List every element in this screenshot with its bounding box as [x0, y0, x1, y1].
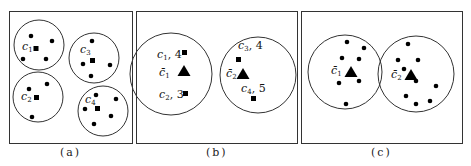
centroid-label: c̄2: [226, 67, 237, 81]
data-point: [357, 79, 362, 84]
group-circle: [378, 36, 454, 112]
data-point: [21, 57, 26, 62]
caption-a: (a): [60, 146, 81, 159]
caption-b: (b): [206, 146, 228, 159]
data-point: [29, 34, 34, 39]
data-point: [30, 115, 35, 120]
data-point: [402, 67, 407, 72]
data-point: [345, 40, 350, 45]
cluster-c1: c1: [14, 20, 64, 70]
group-circle: [308, 35, 382, 109]
cluster-label: c3: [80, 43, 91, 57]
data-point: [81, 62, 86, 67]
data-point: [45, 82, 50, 87]
cluster-c4: c4: [78, 86, 128, 136]
data-point: [108, 63, 113, 68]
data-point: [109, 114, 114, 119]
figure-canvas: c1 c3 c2 c4: [0, 0, 471, 166]
centroid-triangle-marker: [345, 66, 358, 77]
panel-b: c1, 4 c̄1 c2, 3 c3, 4 c̄2 c4, 5: [130, 12, 298, 144]
member-square-marker: [236, 57, 241, 62]
centroid-triangle-marker: [237, 68, 250, 79]
data-point: [27, 87, 32, 92]
member-label-c4: c4, 5: [241, 82, 266, 96]
data-point: [340, 56, 345, 61]
data-point: [344, 102, 349, 107]
cluster-label: c1: [22, 40, 33, 54]
centroid-square-marker: [34, 46, 39, 51]
centroid-label: c̄1: [159, 66, 170, 80]
panel-a: c1 c3 c2 c4: [10, 12, 133, 144]
data-point: [434, 84, 439, 89]
centroid-square-marker: [95, 106, 100, 111]
panel-a-frame: [10, 12, 133, 144]
member-square-marker: [182, 50, 187, 55]
group-2: c3, 4 c̄2 c4, 5: [220, 37, 296, 113]
cluster-c3: c3: [69, 33, 119, 83]
centroid-triangle-marker: [178, 65, 191, 76]
centroid-triangle-marker: [405, 69, 418, 80]
data-point: [90, 39, 95, 44]
data-point: [114, 97, 119, 102]
member-label-c2: c2, 3: [159, 88, 184, 102]
data-point: [414, 102, 419, 107]
member-square-marker: [251, 96, 256, 101]
centroid-label: c̄2: [391, 68, 402, 82]
group-2: c̄2: [378, 36, 454, 112]
centroid-square-marker: [90, 58, 95, 63]
data-point: [92, 122, 97, 127]
data-point: [94, 93, 99, 98]
data-point: [406, 42, 411, 47]
member-label-c3: c3, 4: [238, 39, 263, 53]
data-point: [396, 58, 401, 63]
group-1: c1, 4 c̄1 c2, 3: [130, 33, 212, 115]
group-circle: [130, 33, 212, 115]
data-point: [83, 107, 88, 112]
data-point: [414, 79, 419, 84]
data-point: [404, 94, 409, 99]
data-point: [416, 58, 421, 63]
data-point: [50, 39, 55, 44]
data-point: [44, 57, 49, 62]
member-square-marker: [183, 91, 188, 96]
data-point: [362, 46, 367, 51]
cluster-c2: c2: [13, 72, 63, 122]
data-point: [428, 99, 433, 104]
panel-c: c̄1 c̄2: [302, 12, 463, 144]
data-point: [357, 57, 362, 62]
member-label-c1: c1, 4: [157, 48, 182, 62]
data-point: [337, 81, 342, 86]
centroid-label: c̄1: [331, 64, 342, 78]
centroid-square-marker: [34, 95, 39, 100]
data-point: [89, 74, 94, 79]
group-1: c̄1: [308, 35, 382, 109]
caption-c: (c): [371, 146, 392, 159]
cluster-label: c2: [21, 90, 32, 104]
